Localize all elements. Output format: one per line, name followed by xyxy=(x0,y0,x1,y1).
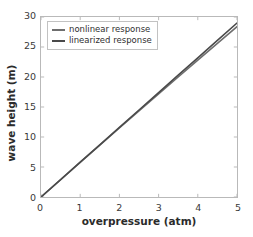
x-tick-label: 3 xyxy=(156,203,162,213)
y-tick-label: 0 xyxy=(14,193,36,203)
plot-area: nonlinear response linearized response xyxy=(40,16,238,198)
x-tick-label: 0 xyxy=(37,203,43,213)
y-tick-label: 15 xyxy=(14,102,36,112)
y-tick-label: 20 xyxy=(14,72,36,82)
y-tick-label: 5 xyxy=(14,163,36,173)
legend-line-swatch-nonlinear xyxy=(52,29,65,31)
legend-line-swatch-linearized xyxy=(52,40,65,42)
x-axis-title: overpressure (atm) xyxy=(40,215,238,227)
y-tick-label: 30 xyxy=(14,11,36,21)
x-tick-label: 1 xyxy=(77,203,83,213)
y-tick-label: 25 xyxy=(14,42,36,52)
legend-item: nonlinear response xyxy=(52,24,152,35)
legend-label-linearized: linearized response xyxy=(69,35,152,46)
y-tick-label: 10 xyxy=(14,133,36,143)
chart-legend: nonlinear response linearized response xyxy=(47,21,158,50)
x-tick-label: 4 xyxy=(195,203,201,213)
x-tick-label: 5 xyxy=(235,203,241,213)
x-tick-label: 2 xyxy=(116,203,122,213)
legend-item: linearized response xyxy=(52,35,152,46)
y-axis-title: wave height (m) xyxy=(5,22,17,204)
chart-figure: 051015202530 012345 nonlinear response l… xyxy=(0,0,253,237)
legend-label-nonlinear: nonlinear response xyxy=(69,24,150,35)
